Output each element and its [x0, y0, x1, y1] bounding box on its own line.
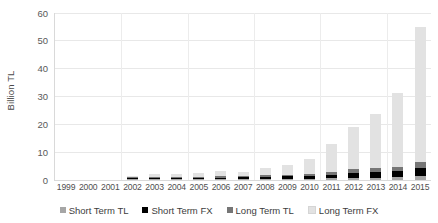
y-axis-tick-labels: 0102030405060: [20, 0, 52, 183]
x-axis-tick: 2015: [409, 182, 431, 198]
bar-segment[interactable]: [392, 93, 403, 167]
bar-segment[interactable]: [304, 179, 315, 180]
bar-segment[interactable]: [348, 178, 359, 179]
bar-slot[interactable]: [343, 13, 365, 180]
bar-slot[interactable]: [387, 13, 409, 180]
bar-slot[interactable]: [55, 13, 77, 180]
bar-slot[interactable]: [166, 13, 188, 180]
bar-slot[interactable]: [365, 13, 387, 180]
bar-segment[interactable]: [326, 144, 337, 171]
legend-swatch-icon: [60, 207, 66, 213]
y-axis-tick: 20: [37, 118, 48, 129]
bar-segment[interactable]: [127, 179, 138, 180]
bar-stack[interactable]: [193, 173, 204, 180]
bar-slot[interactable]: [276, 13, 298, 180]
legend-label: Long Term FX: [319, 205, 379, 216]
x-axis-tick: 2014: [387, 182, 409, 198]
x-axis-tick: 2004: [166, 182, 188, 198]
bar-slot[interactable]: [188, 13, 210, 180]
legend-item[interactable]: Short Term TL: [60, 205, 129, 216]
x-axis-tick: 2013: [365, 182, 387, 198]
plot-area: [54, 13, 431, 181]
legend-label: Short Term FX: [151, 205, 212, 216]
y-axis-tick: 30: [37, 91, 48, 102]
bar-segment[interactable]: [215, 179, 226, 180]
bar-slot[interactable]: [210, 13, 232, 180]
bar-segment[interactable]: [260, 168, 271, 176]
x-axis-tick: 2010: [298, 182, 320, 198]
x-axis-tick: 2012: [343, 182, 365, 198]
bar-stack[interactable]: [238, 172, 249, 180]
chart-container: Billion TL 0102030405060 199920002001200…: [0, 0, 438, 223]
bar-slot[interactable]: [121, 13, 143, 180]
legend-swatch-icon: [142, 207, 148, 213]
y-axis-title: Billion TL: [0, 0, 22, 180]
bar-stack[interactable]: [171, 174, 182, 179]
legend-item[interactable]: Long Term FX: [308, 205, 379, 216]
y-axis-tick: 40: [37, 63, 48, 74]
bar-stack[interactable]: [415, 27, 426, 179]
x-axis-tick: 2005: [188, 182, 210, 198]
bar-segment[interactable]: [415, 176, 426, 179]
bar-stack[interactable]: [127, 176, 138, 180]
bar-stack[interactable]: [282, 165, 293, 179]
bar-slot[interactable]: [99, 13, 121, 180]
bar-slot[interactable]: [321, 13, 343, 180]
x-axis-tick-labels: 1999200020012002200320042005200620072008…: [55, 182, 431, 198]
bar-segment[interactable]: [326, 178, 337, 179]
bar-stack[interactable]: [260, 168, 271, 180]
x-axis-tick: 2007: [232, 182, 254, 198]
x-axis-tick: 1999: [55, 182, 77, 198]
bar-stack[interactable]: [370, 114, 381, 179]
bar-stack[interactable]: [392, 93, 403, 180]
x-axis-tick: 2001: [99, 182, 121, 198]
bar-slot[interactable]: [254, 13, 276, 180]
bar-segment[interactable]: [415, 168, 426, 176]
bar-slot[interactable]: [232, 13, 254, 180]
bar-segment[interactable]: [392, 177, 403, 179]
x-axis-tick: 2000: [77, 182, 99, 198]
y-axis-tick: 0: [43, 174, 48, 185]
x-axis-tick: 2003: [144, 182, 166, 198]
bar-segment[interactable]: [304, 159, 315, 173]
bar-slot[interactable]: [144, 13, 166, 180]
y-axis-tick: 10: [37, 146, 48, 157]
legend-item[interactable]: Short Term FX: [142, 205, 212, 216]
bar-stack[interactable]: [326, 144, 337, 179]
bar-slot[interactable]: [298, 13, 320, 180]
bar-segment[interactable]: [171, 179, 182, 180]
bar-segment[interactable]: [260, 179, 271, 180]
bar-segment[interactable]: [370, 114, 381, 168]
bar-segment[interactable]: [370, 178, 381, 180]
bar-slot[interactable]: [409, 13, 431, 180]
bar-segment[interactable]: [282, 165, 293, 175]
bars-layer: [55, 13, 431, 180]
bar-slot[interactable]: [77, 13, 99, 180]
x-axis-tick: 2009: [276, 182, 298, 198]
bar-segment[interactable]: [149, 179, 160, 180]
bar-segment[interactable]: [238, 179, 249, 180]
bar-segment[interactable]: [348, 127, 359, 169]
bar-stack[interactable]: [215, 171, 226, 180]
y-axis-title-text: Billion TL: [6, 70, 17, 110]
bar-stack[interactable]: [149, 174, 160, 180]
chart-legend: Short Term TLShort Term FXLong Term TLLo…: [0, 201, 438, 219]
y-axis-tick: 60: [37, 7, 48, 18]
bar-stack[interactable]: [348, 127, 359, 179]
legend-swatch-icon: [227, 207, 233, 213]
x-axis-tick: 2008: [254, 182, 276, 198]
legend-label: Short Term TL: [69, 205, 129, 216]
legend-swatch-icon: [308, 206, 316, 214]
bar-segment[interactable]: [193, 179, 204, 180]
x-axis-tick: 2002: [121, 182, 143, 198]
bar-segment[interactable]: [282, 179, 293, 180]
x-axis-tick: 2011: [321, 182, 343, 198]
bar-segment[interactable]: [415, 27, 426, 162]
legend-item[interactable]: Long Term TL: [227, 205, 294, 216]
bar-stack[interactable]: [304, 159, 315, 179]
y-axis-tick: 50: [37, 35, 48, 46]
x-axis-tick: 2006: [210, 182, 232, 198]
legend-label: Long Term TL: [236, 205, 294, 216]
